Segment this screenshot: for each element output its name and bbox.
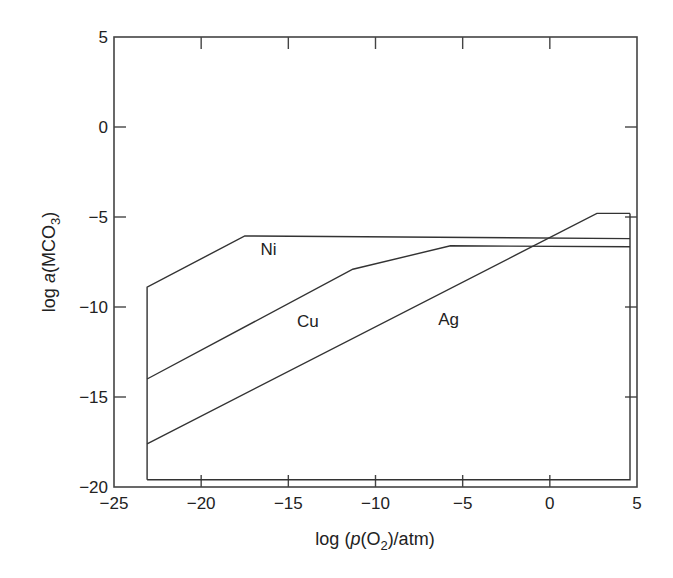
chart: −25−20−15−10−50550−5−10−15−20 NiCuAg log… [0,0,673,578]
series-ni [147,236,630,480]
y-tick-label: 5 [99,28,108,47]
x-tick-label: −15 [274,494,303,513]
y-tick-label: −5 [89,208,108,227]
x-tick-label: 5 [632,494,641,513]
y-tick-label: −10 [79,298,108,317]
x-axis-label: log (p(O2)/atm) [315,529,434,553]
label-ag: Ag [438,310,459,329]
axis-ticks [114,37,637,487]
series-boundary [147,213,630,479]
label-cu: Cu [297,312,319,331]
series-ag [147,213,630,443]
x-tick-label: 0 [545,494,554,513]
y-tick-label: −15 [79,388,108,407]
y-axis-label: log a(MCO3) [39,212,63,312]
tick-labels: −25−20−15−10−50550−5−10−15−20 [79,28,642,513]
series-cu [147,246,630,379]
x-tick-label: −20 [187,494,216,513]
series-lines [147,213,630,479]
plot-frame [114,37,637,487]
x-tick-label: −5 [453,494,472,513]
plot-border [114,37,637,487]
x-tick-label: −10 [361,494,390,513]
label-ni: Ni [260,240,276,259]
series-annotations: NiCuAg [260,240,459,331]
y-tick-label: −20 [79,478,108,497]
y-tick-label: 0 [99,118,108,137]
